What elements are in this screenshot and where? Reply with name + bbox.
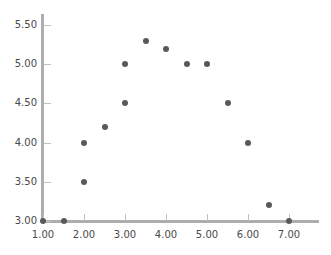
x-axis-line	[41, 220, 319, 223]
y-tick-label: 3.50	[3, 177, 37, 187]
data-point	[225, 100, 231, 106]
y-tick-mark	[44, 143, 51, 144]
y-tick-label: 5.50	[3, 20, 37, 30]
data-point	[81, 179, 87, 185]
x-tick-label: 3.00	[105, 230, 145, 240]
x-tick-label: 5.00	[187, 230, 227, 240]
y-tick-mark	[44, 182, 51, 183]
data-point	[204, 61, 210, 67]
x-tick-label: 1.00	[23, 230, 63, 240]
y-tick-label: 4.00	[3, 138, 37, 148]
x-tick-label: 6.00	[228, 230, 268, 240]
x-tick-label: 4.00	[146, 230, 186, 240]
data-point	[245, 140, 251, 146]
data-point	[184, 61, 190, 67]
data-point	[286, 218, 292, 224]
x-tick-mark	[166, 214, 167, 221]
data-point	[81, 140, 87, 146]
y-tick-label: 5.00	[3, 59, 37, 69]
y-tick-mark	[44, 64, 51, 65]
y-tick-label: 3.00	[3, 216, 37, 226]
x-tick-mark	[207, 214, 208, 221]
x-tick-mark	[125, 214, 126, 221]
data-point	[143, 38, 149, 44]
x-tick-label: 7.00	[269, 230, 309, 240]
scatter-plot: 3.003.504.004.505.005.50 1.002.003.004.0…	[0, 0, 331, 255]
x-tick-mark	[248, 214, 249, 221]
data-point	[61, 218, 67, 224]
y-axis-line	[41, 14, 44, 222]
data-point	[266, 202, 272, 208]
x-tick-mark	[84, 214, 85, 221]
y-tick-mark	[44, 103, 51, 104]
data-point	[40, 218, 46, 224]
x-tick-label: 2.00	[64, 230, 104, 240]
data-point	[122, 61, 128, 67]
data-point	[163, 46, 169, 52]
y-tick-mark	[44, 25, 51, 26]
data-point	[122, 100, 128, 106]
data-point	[102, 124, 108, 130]
y-tick-label: 4.50	[3, 98, 37, 108]
